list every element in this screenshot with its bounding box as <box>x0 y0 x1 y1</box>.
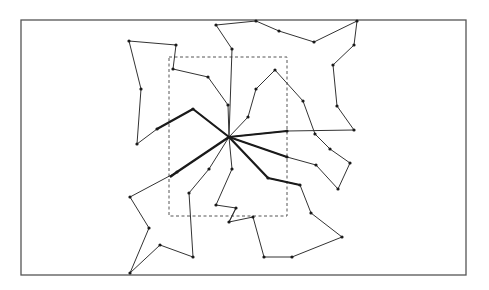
routing-diagram <box>0 0 489 290</box>
node-dot <box>155 127 158 130</box>
node-dot <box>128 271 131 274</box>
node-dot <box>234 206 237 209</box>
node-dot <box>348 161 351 164</box>
node-dot <box>127 39 130 42</box>
node-dot <box>246 115 249 118</box>
node-dot <box>214 203 217 206</box>
node-dot <box>191 107 194 110</box>
outer-frame <box>21 20 466 275</box>
routes-group <box>129 21 357 273</box>
node-dot <box>301 99 304 102</box>
node-dot <box>139 87 142 90</box>
node-dot <box>254 87 257 90</box>
node-dot <box>206 75 209 78</box>
node-dot <box>230 47 233 50</box>
node-dot <box>171 67 174 70</box>
node-dot <box>262 255 265 258</box>
bold-edge <box>229 131 287 137</box>
node-dot <box>355 19 358 22</box>
node-dot <box>328 147 331 150</box>
node-dot <box>285 129 288 132</box>
route-lower-left <box>130 137 229 273</box>
node-dot <box>128 195 131 198</box>
node-dot <box>298 183 301 186</box>
diagram-canvas <box>0 0 489 290</box>
route-right <box>229 70 350 189</box>
node-dot <box>331 63 334 66</box>
node-dot <box>266 176 269 179</box>
node-dot <box>227 220 230 223</box>
node-dot <box>309 211 312 214</box>
node-dot <box>158 243 161 246</box>
bold-edge <box>157 109 229 137</box>
node-dot <box>251 215 254 218</box>
node-dot <box>277 29 280 32</box>
node-dot <box>191 255 194 258</box>
node-dot <box>335 104 338 107</box>
node-dot <box>226 103 229 106</box>
node-dot <box>336 187 339 190</box>
node-dot <box>314 163 317 166</box>
node-dot <box>313 132 316 135</box>
nodes-group <box>127 19 358 274</box>
node-dot <box>147 226 150 229</box>
node-dot <box>352 43 355 46</box>
node-dot <box>312 40 315 43</box>
route-upper-left <box>129 41 229 144</box>
node-dot <box>175 170 178 173</box>
node-dot <box>290 255 293 258</box>
node-dot <box>135 142 138 145</box>
node-dot <box>187 191 190 194</box>
node-dot <box>214 23 217 26</box>
node-dot <box>340 235 343 238</box>
bold-edge <box>170 137 229 177</box>
node-dot <box>254 19 257 22</box>
node-dot <box>352 128 355 131</box>
node-dot <box>230 167 233 170</box>
node-dot <box>207 167 210 170</box>
node-dot <box>174 43 177 46</box>
node-dot <box>273 68 276 71</box>
bold-edge <box>229 137 300 185</box>
route-lower-middle <box>216 137 236 222</box>
node-dot <box>285 155 288 158</box>
